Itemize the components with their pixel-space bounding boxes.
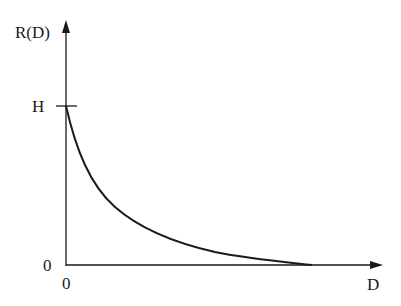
y-axis-label: R(D) <box>15 24 50 41</box>
y-axis-arrow-icon <box>62 20 70 33</box>
y-tick-zero: 0 <box>43 257 52 274</box>
rate-distortion-plot <box>0 0 401 306</box>
x-axis-arrow-icon <box>370 261 383 269</box>
y-tick-h: H <box>32 98 44 115</box>
x-axis-label: D <box>367 276 379 293</box>
rd-curve <box>66 106 312 265</box>
x-tick-zero: 0 <box>62 275 71 292</box>
